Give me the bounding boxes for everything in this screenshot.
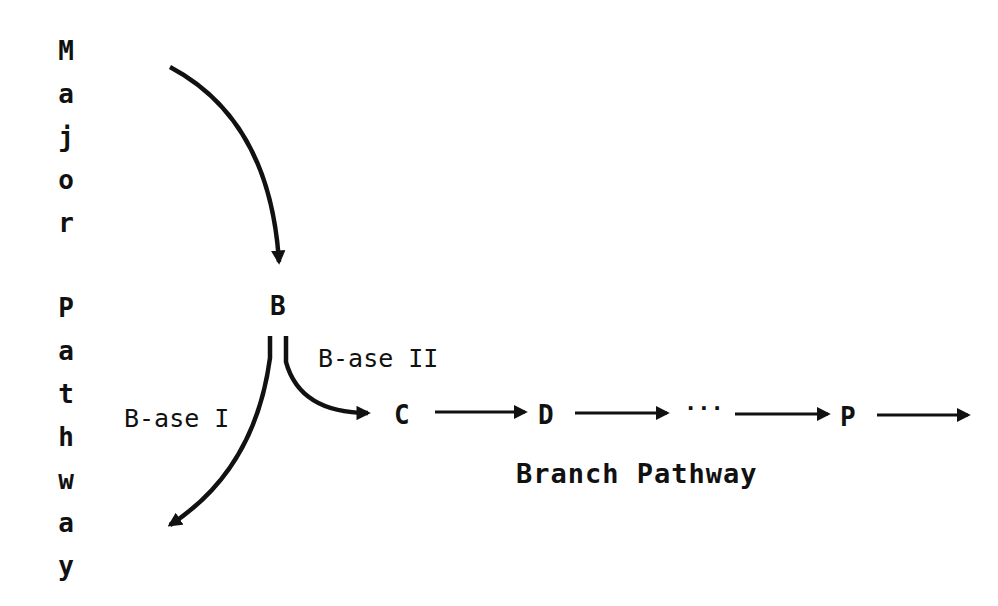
node-c: C <box>394 402 410 428</box>
enzyme-label-b-ase-2: B-ase II <box>318 346 438 371</box>
node-b: B <box>270 293 286 319</box>
enzyme-label-b-ase-1: B-ase I <box>124 406 229 431</box>
node-d: D <box>538 402 554 428</box>
pathway-arrows <box>0 0 998 606</box>
branch-pathway-label: Branch Pathway <box>516 460 758 487</box>
arrow-into-b <box>170 67 279 262</box>
node-p: P <box>840 404 856 430</box>
node-ellipsis: ··· <box>684 398 724 420</box>
